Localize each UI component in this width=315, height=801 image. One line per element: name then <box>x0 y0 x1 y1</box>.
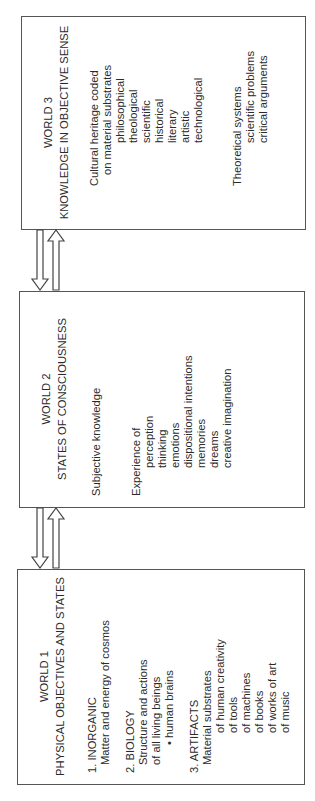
world3-title: WORLD 3 <box>42 17 55 228</box>
world3-line: philosophical <box>114 78 127 143</box>
world1-line: Matter and energy of cosmos <box>99 620 112 765</box>
world3-line: technological <box>192 78 205 143</box>
world3-subtitle: KNOWLEDGE IN OBJECTIVE SENSE <box>58 17 71 228</box>
world2-content: WORLD 2 STATES OF CONSCIOUSNESS Subjecti… <box>20 292 303 506</box>
world1-box: WORLD 1 PHYSICAL OBJECTIVES AND STATES 1… <box>17 569 305 785</box>
world2-line: emotions <box>169 423 182 468</box>
world1-title: WORLD 1 <box>38 570 51 783</box>
world1-line: of music <box>279 691 292 733</box>
world2-line: Subjective knowledge <box>90 388 103 496</box>
world1-line: of works of art <box>266 663 279 733</box>
world3-line: Cultural heritage coded <box>88 70 101 186</box>
world3-line: critical arguments <box>257 55 270 143</box>
world2-line: thinking <box>156 429 169 468</box>
world2-line: perception <box>143 416 156 468</box>
world1-line: of human creativity <box>214 639 227 733</box>
world1-line: Material substrates <box>201 670 214 765</box>
world3-line: on material substrates <box>101 65 114 175</box>
world1-line: of tools <box>227 697 240 733</box>
world1-line: 3. ARTIFACTS <box>188 700 201 773</box>
world3-line: literary <box>166 109 179 143</box>
up-arrow-icon <box>48 508 64 568</box>
world1-content: WORLD 1 PHYSICAL OBJECTIVES AND STATES 1… <box>18 570 303 783</box>
world3-line: scientific <box>140 100 153 143</box>
world3-content: WORLD 3 KNOWLEDGE IN OBJECTIVE SENSE Cul… <box>22 17 304 228</box>
world3-line: historical <box>153 99 166 143</box>
world2-line: memories <box>195 419 208 468</box>
world2-line: Experience of <box>130 428 143 496</box>
bidirectional-arrow-w3-w2 <box>28 229 68 293</box>
world1-line: of machines <box>240 673 253 733</box>
world1-line: of all living beings <box>150 677 163 765</box>
world1-line: 2. BIOLOGY <box>124 710 137 773</box>
world3-line: scientific problems <box>244 51 257 143</box>
world3-box: WORLD 3 KNOWLEDGE IN OBJECTIVE SENSE Cul… <box>21 16 306 230</box>
world3-line: theological <box>127 90 140 144</box>
down-arrow-icon <box>32 230 48 290</box>
world3-line: Theoretical systems <box>231 87 244 186</box>
world2-line: dispositional intentions <box>182 355 195 468</box>
world3-line: artistic <box>179 111 192 143</box>
world1-line: 1. INORGANIC <box>86 697 99 773</box>
world2-line: dreams <box>208 431 221 468</box>
world1-line: Structure and actions <box>137 659 150 765</box>
world1-subtitle: PHYSICAL OBJECTIVES AND STATES <box>54 570 67 783</box>
bidirectional-arrow-w2-w1 <box>28 507 68 571</box>
world2-title: WORLD 2 <box>40 292 53 506</box>
world1-line: • human brains <box>163 670 176 745</box>
world1-line: of books <box>253 691 266 733</box>
up-arrow-icon <box>48 230 64 290</box>
down-arrow-icon <box>32 508 48 568</box>
world2-line: creative imagination <box>221 369 234 469</box>
world2-subtitle: STATES OF CONSCIOUSNESS <box>56 292 69 506</box>
world2-box: WORLD 2 STATES OF CONSCIOUSNESS Subjecti… <box>19 291 305 508</box>
